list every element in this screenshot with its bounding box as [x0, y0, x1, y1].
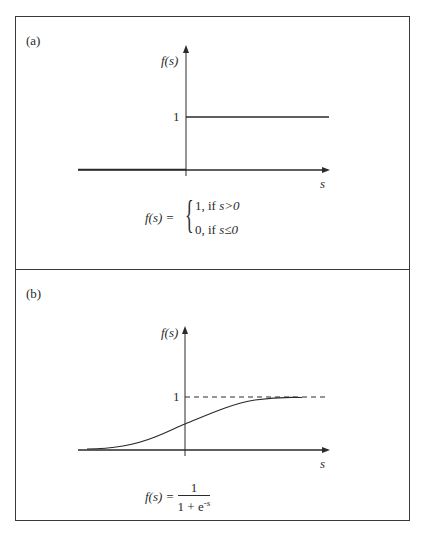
- y-axis-label: f(s): [161, 53, 178, 69]
- y-tick-label-1: 1: [173, 389, 180, 405]
- panel-a-step-function: (a) f(s) 1 s f(s) = { 1, if s>0 0, if s≤…: [15, 16, 410, 269]
- denominator: 1 + e-s: [178, 496, 211, 514]
- panel-b-sigmoid-function: (b) f(s) 1 s f(s) = 1 1 + e-s: [15, 269, 410, 521]
- y-axis-label: f(s): [161, 325, 178, 341]
- case-1: 1, if s>0: [195, 198, 240, 214]
- y-tick-label-1: 1: [173, 109, 180, 125]
- fraction: 1 1 + e-s: [178, 481, 211, 514]
- x-axis-label: s: [320, 176, 325, 192]
- numerator: 1: [178, 481, 211, 496]
- sigmoid-formula: f(s) = 1 1 + e-s: [145, 481, 210, 514]
- step-formula: f(s) = { 1, if s>0 0, if s≤0: [145, 194, 285, 242]
- case-2: 0, if s≤0: [195, 222, 238, 238]
- left-brace: {: [185, 192, 194, 238]
- sigmoid-function-plot: [15, 269, 410, 521]
- formula-lhs: f(s) =: [145, 489, 174, 504]
- x-axis-label: s: [320, 456, 325, 472]
- formula-lhs: f(s) =: [145, 210, 174, 226]
